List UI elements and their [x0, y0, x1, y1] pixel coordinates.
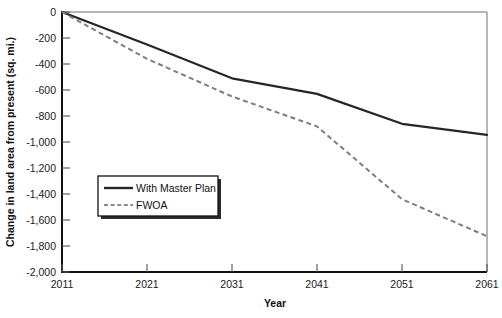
- chart-legend: With Master Plan FWOA: [98, 176, 221, 219]
- y-tick-label: -1,600: [26, 214, 56, 226]
- x-tick-label: 2041: [305, 278, 329, 290]
- y-tick-label: -600: [35, 84, 56, 96]
- x-tick-label: 2031: [220, 278, 244, 290]
- y-tick-label: -200: [35, 32, 56, 44]
- line-chart: 0 -200 -400 -600 -800 -1,000 -1,200 -1,4…: [0, 0, 502, 318]
- x-tick-label: 2011: [51, 278, 74, 290]
- x-axis-ticks: [62, 264, 487, 272]
- x-tick-label: 2061: [475, 278, 499, 290]
- series-line-with-master-plan: [62, 12, 487, 135]
- y-axis-ticks: [62, 12, 70, 272]
- x-axis-tick-labels: 2011 2021 2031 2041 2051 2061: [51, 278, 499, 290]
- y-tick-label: -1,400: [26, 188, 56, 200]
- y-tick-label: -2,000: [26, 266, 56, 278]
- y-axis-title: Change in land area from present (sq. mi…: [4, 37, 16, 247]
- y-tick-label: -1,000: [26, 136, 56, 148]
- y-tick-label: 0: [50, 6, 56, 18]
- legend-label-with-master-plan: With Master Plan: [136, 182, 216, 194]
- x-tick-label: 2051: [390, 278, 414, 290]
- y-axis-tick-labels: 0 -200 -400 -600 -800 -1,000 -1,200 -1,4…: [26, 6, 56, 278]
- x-axis-title: Year: [264, 297, 286, 309]
- y-tick-label: -800: [35, 110, 56, 122]
- legend-label-fwoa: FWOA: [136, 199, 168, 211]
- y-tick-label: -400: [35, 58, 56, 70]
- x-tick-label: 2021: [135, 278, 159, 290]
- y-tick-label: -1,800: [26, 240, 56, 252]
- chart-container: 0 -200 -400 -600 -800 -1,000 -1,200 -1,4…: [0, 0, 502, 318]
- y-tick-label: -1,200: [26, 162, 56, 174]
